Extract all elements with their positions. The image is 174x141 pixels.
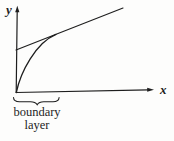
boundary-layer-figure: y x boundary layer [0,0,174,141]
velocity-profile-curve [16,34,56,92]
x-axis [16,90,148,93]
boundary-layer-caption: boundary layer [8,106,66,132]
y-axis-arrowhead-icon [15,6,19,12]
underbrace-icon [14,98,60,105]
x-axis-label: x [160,83,167,96]
y-axis-label: y [6,3,12,16]
x-axis-arrowhead-icon [147,88,154,92]
tangent-line [16,8,123,50]
y-axis [16,11,17,93]
caption-line-2: layer [8,119,66,132]
